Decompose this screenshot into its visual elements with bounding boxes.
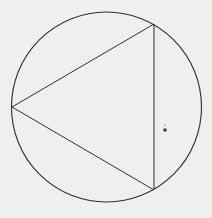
geometry-figure xyxy=(0,0,212,218)
speck-mark xyxy=(163,124,167,132)
circumscribed-circle xyxy=(12,12,202,202)
inscribed-triangle-diagram xyxy=(0,0,212,218)
inscribed-equilateral-triangle xyxy=(12,24,154,190)
